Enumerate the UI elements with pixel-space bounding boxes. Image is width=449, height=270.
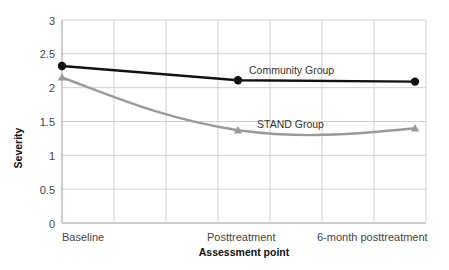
x-axis-title: Assessment point: [199, 246, 290, 258]
x-tick-label-baseline: Baseline: [62, 231, 104, 243]
stand-group-label: STAND Group: [257, 118, 324, 130]
y-tick-label-0: 0: [49, 218, 55, 230]
line-chart-svg: 3 2.5 2 1.5 1 0.5 0 Severity Community G…: [0, 0, 449, 270]
y-axis-title: Severity: [12, 127, 24, 168]
community-group-point-posttreatment: [234, 76, 242, 84]
community-group-label: Community Group: [249, 64, 334, 76]
chart-background: [0, 0, 449, 270]
y-tick-label-2: 2: [49, 82, 55, 94]
y-tick-label-1: 1: [49, 150, 55, 162]
community-group-point-6month: [411, 77, 419, 85]
y-tick-label-0p5: 0.5: [40, 184, 55, 196]
y-tick-label-3: 3: [49, 15, 55, 27]
y-tick-label-1p5: 1.5: [40, 116, 55, 128]
x-tick-label-6month-posttreatment: 6-month posttreatment: [317, 231, 428, 243]
community-group-point-baseline: [58, 62, 66, 70]
x-tick-label-posttreatment: Posttreatment: [207, 231, 275, 243]
chart-figure: 3 2.5 2 1.5 1 0.5 0 Severity Community G…: [0, 0, 449, 270]
y-tick-label-2p5: 2.5: [40, 48, 55, 60]
